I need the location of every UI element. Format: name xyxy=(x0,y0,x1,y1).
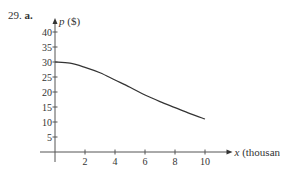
chart: 246810510152025303540x (thousand)p ($) xyxy=(0,0,280,177)
y-axis-arrow-icon xyxy=(53,18,58,24)
x-tick-label: 8 xyxy=(173,156,178,167)
y-axis-label: p ($) xyxy=(58,15,80,28)
x-tick-label: 2 xyxy=(83,156,88,167)
y-tick-label: 35 xyxy=(42,42,52,53)
y-tick-label: 40 xyxy=(42,27,52,38)
y-tick-label: 15 xyxy=(42,102,52,113)
y-tick-label: 30 xyxy=(42,57,52,68)
x-axis-arrow-icon xyxy=(227,150,233,155)
x-tick-label: 10 xyxy=(200,156,210,167)
x-axis-label: x (thousand) xyxy=(234,146,281,159)
y-tick-label: 10 xyxy=(42,117,52,128)
x-tick-label: 6 xyxy=(143,156,148,167)
y-tick-label: 25 xyxy=(42,72,52,83)
y-tick-label: 5 xyxy=(47,132,52,143)
price-curve xyxy=(55,62,205,119)
y-tick-label: 20 xyxy=(42,87,52,98)
x-tick-label: 4 xyxy=(113,156,118,167)
